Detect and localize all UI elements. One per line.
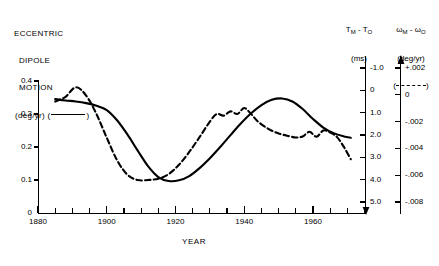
x-tick-1920: [175, 206, 176, 213]
y-right1-tick-label-2: 1.0: [370, 109, 381, 117]
y-right2-tick-2: [395, 121, 401, 122]
x-tick-1955: [295, 208, 296, 213]
x-tick-1925: [192, 208, 193, 213]
y-right1-tick-label-4: 3.0: [370, 153, 381, 161]
y-left-tick-label-0.3: 0.3: [8, 110, 32, 118]
y-right1-tick-4: [360, 157, 366, 158]
y-left-tick-label-0.2: 0.2: [8, 143, 32, 151]
y-right1-tick-5: [360, 179, 366, 180]
x-tick-1950: [278, 208, 279, 213]
y-right1-tick-3: [360, 134, 366, 135]
y-right2-tick-label-2: -.002: [405, 118, 423, 126]
y-left-tick-0.3: [34, 113, 39, 114]
y-right2-tick-3: [395, 148, 401, 149]
x-tick-1960: [312, 206, 313, 213]
right-axis-2-up-arrow-icon: [398, 55, 405, 64]
x-tick-label-1960: 1960: [293, 218, 333, 226]
x-tick-label-1920: 1920: [156, 218, 196, 226]
y-right2-tick-label-1: 0: [405, 91, 409, 99]
x-tick-1895: [89, 208, 90, 213]
x-axis-label: YEAR: [182, 238, 206, 246]
y-right2-tick-4: [395, 175, 401, 176]
series-line-1: [55, 98, 351, 181]
y-right2-tick-label-0: +.002: [405, 64, 425, 72]
x-tick-label-1940: 1940: [224, 218, 264, 226]
x-tick-1970: [347, 208, 348, 213]
y-left-tick-0.2: [34, 146, 39, 147]
x-tick-1975: [364, 208, 365, 213]
y-left-tick-label-0: 0: [8, 209, 32, 217]
eccentric-dipole-motion-chart: ECCENTRIC DIPOLE MOTION (deg/yr) () TM -…: [0, 0, 439, 266]
y-right2-tick-0: [395, 67, 401, 68]
x-tick-1930: [209, 208, 210, 213]
y-right2-tick-label-4: -.006: [405, 171, 423, 179]
y-right1-tick-2: [360, 112, 366, 113]
y-right1-tick-label-0: -1.0: [370, 64, 384, 72]
x-tick-1940: [244, 206, 245, 213]
x-tick-label-1880: 1880: [18, 218, 58, 226]
y-right1-tick-label-1: 0: [370, 86, 374, 94]
x-tick-label-1900: 1900: [87, 218, 127, 226]
x-tick-1880: [37, 206, 38, 213]
y-right2-tick-label-3: -.004: [405, 144, 423, 152]
y-right2-tick-label-5: -.008: [405, 198, 423, 206]
x-tick-1885: [55, 208, 56, 213]
y-right1-tick-0: [360, 67, 366, 68]
y-left-tick-0.4: [34, 80, 39, 81]
y-right1-tick-6: [360, 201, 366, 202]
x-tick-1915: [158, 208, 159, 213]
y-right1-tick-label-5: 4.0: [370, 176, 381, 184]
y-right2-tick-1: [395, 94, 401, 95]
x-tick-1965: [330, 208, 331, 213]
y-left-tick-label-0.1: 0.1: [8, 176, 32, 184]
series-line-2: [55, 87, 351, 180]
x-tick-1935: [226, 208, 227, 213]
x-tick-1890: [72, 208, 73, 213]
y-right1-tick-label-6: 5.0: [370, 198, 381, 206]
x-tick-1945: [261, 208, 262, 213]
x-tick-1900: [106, 206, 107, 213]
y-right2-tick-5: [395, 201, 401, 202]
x-tick-1905: [123, 208, 124, 213]
y-left-tick-0.1: [34, 179, 39, 180]
y-right1-tick-label-3: 2.0: [370, 131, 381, 139]
y-right1-tick-1: [360, 90, 366, 91]
x-tick-1910: [141, 208, 142, 213]
y-left-tick-label-0.4: 0.4: [8, 77, 32, 85]
